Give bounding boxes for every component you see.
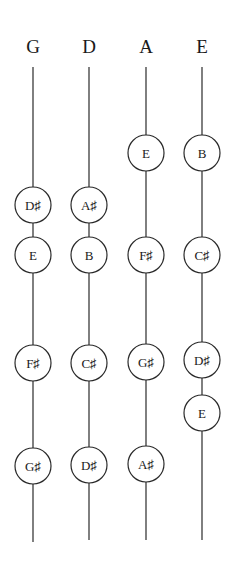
note-marker: F♯	[15, 345, 51, 381]
note-marker: A♯	[128, 446, 164, 482]
note-marker: E	[128, 135, 164, 171]
note-label: E	[142, 146, 150, 161]
note-label: A♯	[138, 457, 154, 472]
note-label: F♯	[139, 248, 153, 263]
note-marker: B	[71, 237, 107, 273]
string-e-group: EBC♯D♯E	[184, 36, 220, 540]
note-marker: C♯	[184, 237, 220, 273]
string-label: D	[82, 36, 96, 57]
note-label: G♯	[138, 355, 154, 370]
string-label: E	[196, 36, 208, 57]
note-marker: G♯	[128, 344, 164, 380]
note-label: B	[198, 146, 207, 161]
string-a-group: AEF♯G♯A♯	[128, 36, 164, 540]
string-g-group: GD♯EF♯G♯	[15, 36, 51, 542]
string-label: A	[139, 36, 153, 57]
note-marker: B	[184, 135, 220, 171]
note-marker: D♯	[71, 447, 107, 483]
note-label: D♯	[81, 458, 97, 473]
note-label: E	[29, 248, 37, 263]
note-label: F♯	[26, 356, 40, 371]
note-marker: E	[184, 395, 220, 431]
string-diagram: GD♯EF♯G♯DA♯BC♯D♯AEF♯G♯A♯EBC♯D♯E	[0, 0, 238, 577]
note-marker: G♯	[15, 448, 51, 484]
note-marker: A♯	[71, 187, 107, 223]
note-label: C♯	[194, 248, 209, 263]
note-label: A♯	[81, 198, 97, 213]
note-label: D♯	[194, 353, 210, 368]
note-label: D♯	[25, 198, 41, 213]
note-marker: D♯	[15, 187, 51, 223]
note-label: B	[85, 248, 94, 263]
note-label: G♯	[25, 459, 41, 474]
string-label: G	[26, 36, 40, 57]
string-d-group: DA♯BC♯D♯	[71, 36, 107, 540]
note-label: E	[198, 406, 206, 421]
note-marker: F♯	[128, 237, 164, 273]
note-marker: E	[15, 237, 51, 273]
note-marker: D♯	[184, 342, 220, 378]
note-label: C♯	[81, 356, 96, 371]
note-marker: C♯	[71, 345, 107, 381]
